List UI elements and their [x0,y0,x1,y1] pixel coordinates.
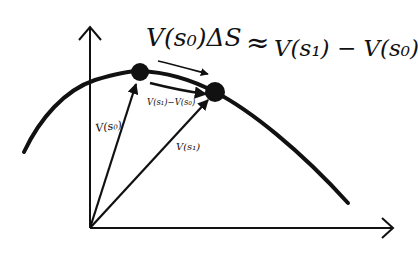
label-v-s1: V(s₁) [176,141,200,152]
tangent-arrow [158,61,208,74]
point-s0 [131,63,149,81]
equation-approx: ≈ [246,26,269,59]
equation-rhs: V(s₁) − V(s₀) [274,35,418,61]
equation-lhs: V(s₀)ΔS [146,23,242,52]
x-axis [90,218,393,238]
label-v-s0: V(s₀) [95,118,123,135]
sketch-svg: V(s₀) V(s₁) V(s₁)−V(s₀) V(s₀)ΔS ≈ V(s₁) … [0,0,418,255]
label-difference: V(s₁)−V(s₀) [147,97,195,107]
equation: V(s₀)ΔS ≈ V(s₁) − V(s₀) [146,23,418,61]
point-s1 [205,82,225,102]
diagram-canvas: V(s₀) V(s₁) V(s₁)−V(s₀) V(s₀)ΔS ≈ V(s₁) … [0,0,418,255]
vector-v-s1 [90,100,208,228]
vector-v-s0 [90,84,136,228]
